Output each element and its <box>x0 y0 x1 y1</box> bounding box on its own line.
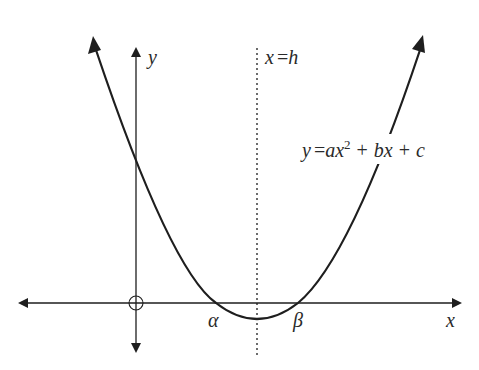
parabola-right-arrow-icon <box>412 35 425 53</box>
axis-of-symmetry-label: x=h <box>264 46 298 68</box>
x-axis-label: x <box>445 309 455 331</box>
parabola-diagram: y x x=h y=ax2+bx+c α β <box>0 0 479 370</box>
y-axis-label: y <box>146 46 157 69</box>
root-beta-label: β <box>292 309 303 332</box>
parabola-curve <box>96 50 420 319</box>
parabola-left-arrow-icon <box>88 36 101 54</box>
root-alpha-label: α <box>208 309 219 331</box>
equation-label: y=ax2+bx+c <box>300 137 425 162</box>
